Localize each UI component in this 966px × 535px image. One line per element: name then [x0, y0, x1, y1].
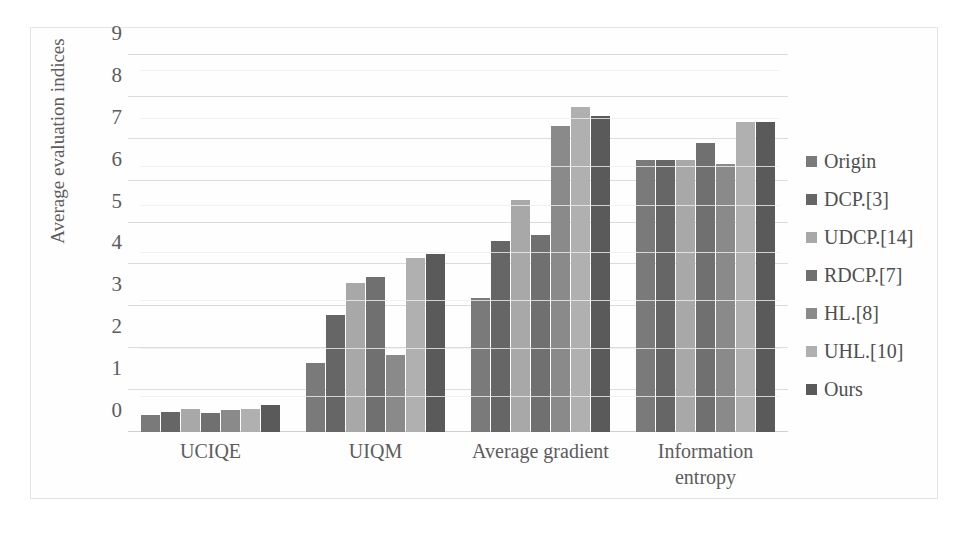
- legend-label: UHL.[10]: [824, 341, 903, 361]
- bar: [406, 258, 425, 432]
- bar-chart: Average evaluation indices 0123456789 UC…: [0, 0, 966, 535]
- x-axis-label-line: Average gradient: [458, 438, 623, 464]
- bar: [241, 409, 260, 432]
- bar: [491, 241, 510, 432]
- x-axis-labels: UCIQEUIQMAverage gradientInformationentr…: [128, 438, 788, 508]
- bar: [326, 315, 345, 432]
- y-axis-title: Average evaluation indices: [47, 31, 69, 251]
- bar: [676, 160, 695, 432]
- bar: [426, 254, 445, 432]
- legend-label: Ours: [824, 379, 863, 399]
- scan-texture: [140, 396, 780, 397]
- legend-swatch-icon: [806, 194, 817, 205]
- scan-texture: [140, 118, 780, 119]
- y-tick-label-9: 9: [88, 23, 122, 44]
- bar: [181, 409, 200, 432]
- y-tick-label-3: 3: [88, 274, 122, 295]
- legend-swatch-icon: [806, 156, 817, 167]
- scan-texture: [140, 205, 780, 206]
- bar-group: [623, 55, 788, 432]
- legend-item[interactable]: RDCP.[7]: [806, 256, 956, 294]
- scan-texture: [140, 166, 780, 167]
- x-axis-label: UCIQE: [128, 438, 293, 464]
- legend-item[interactable]: DCP.[3]: [806, 180, 956, 218]
- plot-area: [128, 55, 788, 432]
- bar: [201, 413, 220, 432]
- y-tick-label-6: 6: [88, 149, 122, 170]
- bar-group: [128, 55, 293, 432]
- bar: [636, 160, 655, 432]
- bar: [221, 410, 240, 432]
- legend-label: UDCP.[14]: [824, 227, 913, 247]
- x-axis-label-line: UIQM: [293, 438, 458, 464]
- x-axis-label: Informationentropy: [623, 438, 788, 490]
- y-tick-label-5: 5: [88, 191, 122, 212]
- legend-label: DCP.[3]: [824, 189, 889, 209]
- bar: [261, 405, 280, 432]
- y-tick-label-2: 2: [88, 316, 122, 337]
- bar: [736, 122, 755, 432]
- bar-group: [293, 55, 458, 432]
- bars-layer: [128, 55, 788, 432]
- scan-texture: [140, 252, 780, 253]
- legend-swatch-icon: [806, 384, 817, 395]
- legend: OriginDCP.[3]UDCP.[14]RDCP.[7]HL.[8]UHL.…: [806, 142, 956, 408]
- bar: [656, 160, 675, 432]
- bar: [471, 298, 490, 432]
- legend-swatch-icon: [806, 346, 817, 357]
- x-axis-label-line: entropy: [623, 464, 788, 490]
- bar: [141, 415, 160, 432]
- x-axis-label: UIQM: [293, 438, 458, 464]
- y-tick-label-4: 4: [88, 232, 122, 253]
- legend-label: RDCP.[7]: [824, 265, 902, 285]
- scan-texture: [140, 300, 780, 301]
- legend-item[interactable]: Ours: [806, 370, 956, 408]
- legend-item[interactable]: HL.[8]: [806, 294, 956, 332]
- bar-group: [458, 55, 623, 432]
- legend-swatch-icon: [806, 232, 817, 243]
- y-tick-label-0: 0: [88, 400, 122, 421]
- legend-item[interactable]: UHL.[10]: [806, 332, 956, 370]
- bar: [696, 143, 715, 432]
- bar: [571, 107, 590, 432]
- x-axis-label: Average gradient: [458, 438, 623, 464]
- legend-item[interactable]: Origin: [806, 142, 956, 180]
- legend-swatch-icon: [806, 270, 817, 281]
- legend-item[interactable]: UDCP.[14]: [806, 218, 956, 256]
- y-axis-ticks: 0123456789: [78, 55, 122, 432]
- scan-texture: [140, 70, 780, 71]
- scan-texture: [140, 348, 780, 349]
- x-axis-label-line: Information: [623, 438, 788, 464]
- bar: [346, 283, 365, 432]
- bar: [531, 235, 550, 432]
- bar: [511, 200, 530, 432]
- bar: [756, 122, 775, 432]
- y-tick-label-1: 1: [88, 358, 122, 379]
- bar: [306, 363, 325, 432]
- legend-label: HL.[8]: [824, 303, 879, 323]
- y-tick-label-7: 7: [88, 107, 122, 128]
- bar: [161, 412, 180, 432]
- legend-label: Origin: [824, 151, 876, 171]
- bar: [551, 126, 570, 432]
- y-tick-label-8: 8: [88, 65, 122, 86]
- x-axis-label-line: UCIQE: [128, 438, 293, 464]
- legend-swatch-icon: [806, 308, 817, 319]
- bar: [591, 116, 610, 432]
- bar: [386, 355, 405, 432]
